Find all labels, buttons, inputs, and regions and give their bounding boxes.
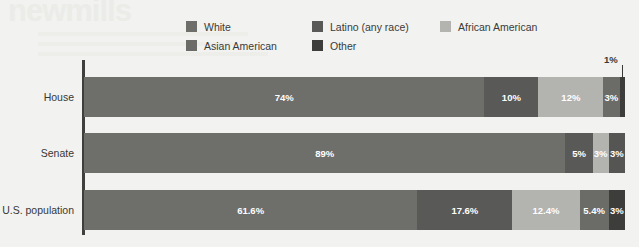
annotation-leader-line: [622, 65, 623, 80]
bar-segment[interactable]: 3%: [609, 133, 625, 173]
bar-segment[interactable]: 17.6%: [417, 190, 512, 230]
bar-category-label: House: [0, 77, 74, 117]
bar-segment-label: 12.4%: [533, 205, 560, 216]
bar-segment[interactable]: 3%: [603, 77, 619, 117]
legend-swatch-icon: [440, 21, 451, 32]
legend-label: Other: [330, 40, 356, 52]
legend-label: White: [204, 21, 231, 33]
bar-segment-label: 3%: [610, 148, 624, 159]
bar-track[interactable]: 89%5%3%3%: [84, 133, 625, 173]
legend-item-latino[interactable]: Latino (any race): [312, 17, 440, 36]
bar-track[interactable]: 61.6%17.6%12.4%5.4%3%: [84, 190, 625, 230]
bar-segment-label: 3%: [605, 92, 619, 103]
bar-segment[interactable]: 12%: [538, 77, 603, 117]
stacked-bar-chart: White Latino (any race) African American…: [0, 0, 639, 247]
legend-item-other[interactable]: Other: [312, 36, 440, 55]
legend-item-asian-american[interactable]: Asian American: [186, 36, 312, 55]
bar-segment-label: 3%: [594, 148, 608, 159]
bar-segment-label: 12%: [561, 92, 580, 103]
bar-segment[interactable]: 61.6%: [84, 190, 417, 230]
legend-row: White Latino (any race) African American: [186, 17, 586, 36]
bar-segment[interactable]: 3%: [609, 190, 625, 230]
bar-segment[interactable]: 74%: [84, 77, 484, 117]
bar-category-label: U.S. population: [0, 190, 74, 230]
legend-swatch-icon: [186, 21, 197, 32]
chart-legend: White Latino (any race) African American…: [186, 17, 586, 55]
bar-row: U.S. population 61.6%17.6%12.4%5.4%3%: [0, 190, 639, 230]
annotation-label: 1%: [604, 54, 618, 65]
bar-segment-label: 5.4%: [583, 205, 605, 216]
bar-segment-label: 3%: [610, 205, 624, 216]
bar-segment-label: 5%: [572, 148, 586, 159]
legend-swatch-icon: [312, 21, 323, 32]
legend-label: Asian American: [204, 40, 277, 52]
bar-segment[interactable]: 5%: [565, 133, 592, 173]
legend-item-white[interactable]: White: [186, 17, 312, 36]
bar-track[interactable]: 74%10%12%3%: [84, 77, 625, 117]
bar-segment-label: 17.6%: [451, 205, 478, 216]
bar-segment[interactable]: [620, 77, 625, 117]
legend-row: Asian American Other: [186, 36, 586, 55]
bar-segment[interactable]: 12.4%: [512, 190, 579, 230]
legend-swatch-icon: [312, 40, 323, 51]
bar-segment[interactable]: 89%: [84, 133, 565, 173]
bar-row: Senate 89%5%3%3%: [0, 133, 639, 173]
bar-segment[interactable]: 5.4%: [580, 190, 609, 230]
legend-swatch-icon: [186, 40, 197, 51]
bar-segment-label: 10%: [502, 92, 521, 103]
bar-segment-label: 89%: [315, 148, 334, 159]
legend-label: African American: [458, 21, 537, 33]
bar-row: House 74%10%12%3%: [0, 77, 639, 117]
bar-segment[interactable]: 3%: [593, 133, 609, 173]
bar-segment[interactable]: 10%: [484, 77, 538, 117]
legend-label: Latino (any race): [330, 21, 409, 33]
bar-category-label: Senate: [0, 133, 74, 173]
bar-segment-label: 61.6%: [237, 205, 264, 216]
legend-item-african-american[interactable]: African American: [440, 17, 580, 36]
bar-segment-label: 74%: [275, 92, 294, 103]
annotation-callout: 1%: [604, 54, 638, 80]
